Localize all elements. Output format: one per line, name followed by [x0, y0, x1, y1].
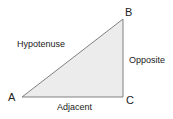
side-label-adjacent: Adjacent — [57, 103, 92, 112]
triangle-diagram: A B C Hypotenuse Opposite Adjacent — [0, 0, 173, 119]
side-label-hypotenuse: Hypotenuse — [17, 40, 65, 49]
right-triangle-shape — [22, 19, 123, 97]
vertex-label-b: B — [125, 7, 132, 18]
side-label-opposite: Opposite — [129, 56, 165, 65]
vertex-label-a: A — [8, 92, 15, 103]
vertex-label-c: C — [126, 95, 134, 106]
